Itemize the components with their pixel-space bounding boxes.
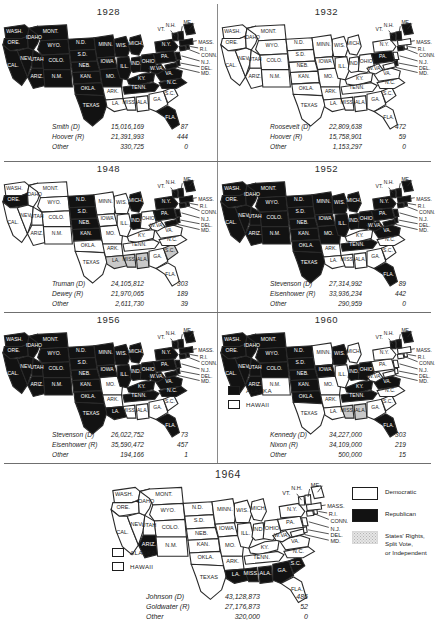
state-label-ind: IND. bbox=[131, 368, 141, 374]
state-label-md: MD. bbox=[419, 227, 428, 233]
leader-line-del bbox=[181, 220, 200, 224]
state-conn bbox=[179, 203, 186, 208]
state-label-iowa: IOWA bbox=[100, 366, 114, 372]
result-row: Hoover (R)15,758,90159 bbox=[218, 132, 435, 142]
state-label-md: MD. bbox=[419, 378, 428, 384]
leader-line-conn bbox=[405, 206, 418, 211]
state-label-miss: MISS. bbox=[341, 99, 355, 105]
state-del bbox=[176, 217, 180, 223]
other-swatch bbox=[352, 531, 378, 544]
state-label-ky: KY. bbox=[356, 75, 363, 81]
alaska-key: ALASKA bbox=[112, 548, 156, 557]
state-conn bbox=[179, 354, 186, 359]
candidate-name: Hoover (R) bbox=[0, 132, 78, 142]
state-label-md: MD. bbox=[201, 227, 210, 233]
state-label-la: LA. bbox=[232, 571, 241, 577]
state-label-ark: ARK. bbox=[107, 245, 119, 251]
candidate-name: Truman (D) bbox=[0, 279, 78, 289]
state-label-ky: KY. bbox=[356, 383, 363, 389]
state-label-wis: WIS. bbox=[116, 199, 127, 205]
state-label-md: MD. bbox=[330, 538, 341, 544]
state-label-vt: VT. bbox=[376, 26, 383, 32]
state-label-sc: S.C. bbox=[165, 90, 175, 96]
state-label-mass: MASS. bbox=[198, 347, 214, 353]
result-row: Roosevelt (D)22,809,638472 bbox=[218, 122, 435, 132]
election-maps-sheet: 1928WASH.ORE.CAL.NEV.IDAHOMONT.WYO.UTAHC… bbox=[0, 0, 435, 633]
popular-vote: 27,314,992 bbox=[296, 279, 362, 289]
state-label-ohio: OHIO bbox=[265, 525, 280, 531]
election-panel-1960: 1960WASH.ORE.CAL.NEV.IDAHOMONT.WYO.UTAHC… bbox=[218, 314, 435, 466]
state-label-nd: N.D. bbox=[76, 347, 86, 353]
state-label-okla: OKLA. bbox=[81, 85, 96, 91]
leader-line-ri bbox=[190, 46, 198, 47]
result-row: Truman (D)24,105,812303 bbox=[0, 279, 217, 289]
leader-line-ri bbox=[190, 203, 198, 204]
state-label-mass: MASS. bbox=[416, 39, 432, 45]
state-label-cal: CAL. bbox=[225, 370, 236, 376]
state-label-ala: ALA. bbox=[355, 99, 366, 105]
candidate-name: Other bbox=[0, 450, 78, 460]
state-label-nh: N.H. bbox=[384, 330, 394, 336]
state-label-texas: TEXAS bbox=[301, 102, 318, 108]
state-label-colo: COLO. bbox=[162, 524, 180, 530]
state-label-conn: CONN. bbox=[419, 52, 435, 58]
state-label-iowa: IOWA bbox=[100, 215, 114, 221]
result-row: Other194,1661 bbox=[0, 450, 217, 460]
electoral-vote: 0 bbox=[260, 612, 308, 622]
state-label-fla: FLA. bbox=[383, 271, 394, 277]
leader-line-nj bbox=[182, 364, 200, 369]
state-label-ill: ILL. bbox=[338, 371, 346, 377]
state-label-wyo: WYO. bbox=[48, 199, 61, 205]
result-row: Johnson (D)43,128,873486 bbox=[108, 592, 348, 602]
state-label-nd: N.D. bbox=[76, 196, 86, 202]
state-label-kan: KAN. bbox=[298, 73, 310, 79]
state-label-nh: N.H. bbox=[166, 330, 176, 336]
results-table: Kennedy (D)34,227,000303Nixon (R)34,109,… bbox=[218, 430, 435, 460]
state-label-wash: WASH. bbox=[224, 185, 240, 191]
state-label-nm: N.M. bbox=[52, 230, 63, 236]
state-label-me: ME. bbox=[401, 176, 410, 182]
state-label-texas: TEXAS bbox=[301, 410, 318, 416]
state-label-mont: MONT. bbox=[43, 28, 59, 34]
election-year: 1956 bbox=[0, 314, 217, 326]
state-label-vt: VT. bbox=[158, 183, 165, 189]
state-label-pa: PA. bbox=[379, 53, 387, 59]
state-label-cal: CAL. bbox=[7, 62, 18, 68]
state-label-sc: S.C. bbox=[383, 90, 393, 96]
state-label-utah: UTAH bbox=[248, 364, 262, 370]
state-label-ill: ILL. bbox=[241, 530, 251, 536]
electoral-vote: 52 bbox=[260, 602, 308, 612]
election-panel-1932: 1932WASH.ORE.CAL.NEV.IDAHOMONT.WYO.UTAHC… bbox=[218, 6, 435, 158]
state-label-wva: W.VA. bbox=[368, 373, 382, 379]
leader-line-del bbox=[181, 63, 200, 67]
us-map: WASH.ORE.CAL.NEV.IDAHOMONT.WYO.UTAHCOLO.… bbox=[0, 19, 217, 136]
state-label-ark: ARK. bbox=[107, 396, 119, 402]
state-label-va: VA. bbox=[383, 70, 391, 76]
state-label-sd: S.D. bbox=[78, 208, 88, 214]
state-label-vt: VT. bbox=[376, 334, 383, 340]
state-label-va: VA. bbox=[165, 70, 173, 76]
leader-line-nj bbox=[400, 364, 418, 369]
state-label-kan: KAN. bbox=[298, 381, 310, 387]
state-label-okla: OKLA. bbox=[299, 85, 314, 91]
electoral-vote: 0 bbox=[362, 142, 406, 152]
state-label-mo: MO. bbox=[106, 73, 116, 79]
results-table: Roosevelt (D)22,809,638472Hoover (R)15,7… bbox=[218, 122, 435, 152]
electoral-vote: 303 bbox=[362, 430, 406, 440]
state-conn bbox=[179, 46, 186, 51]
state-del bbox=[303, 527, 307, 533]
result-row: Other320,0000 bbox=[108, 612, 348, 622]
legend-label: Democratic bbox=[385, 487, 416, 496]
electoral-vote: 59 bbox=[362, 132, 406, 142]
state-label-la: LA. bbox=[112, 408, 120, 414]
alaska-key: ALASKA bbox=[228, 386, 272, 395]
state-label-nh: N.H. bbox=[291, 485, 303, 491]
state-label-me: ME. bbox=[183, 176, 192, 182]
state-label-va: VA. bbox=[165, 378, 173, 384]
popular-vote: 26,022,752 bbox=[78, 430, 144, 440]
result-row: Dewey (R)21,970,065189 bbox=[0, 289, 217, 299]
state-label-la: LA. bbox=[112, 100, 120, 106]
electoral-vote: 457 bbox=[144, 440, 188, 450]
state-label-ga: GA. bbox=[153, 96, 162, 102]
state-label-neb: NEB. bbox=[297, 370, 309, 376]
